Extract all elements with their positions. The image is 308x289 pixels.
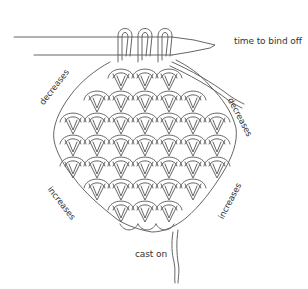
stitch-loop-inner (65, 161, 81, 166)
stitch-leg (137, 184, 153, 200)
label-cast-on: cast on (135, 249, 167, 259)
needle-loops (118, 29, 172, 63)
stitch-leg (185, 96, 201, 112)
stitch-loop-inner (89, 161, 105, 166)
stitch-loop-inner (65, 139, 81, 144)
stitch-leg (209, 140, 225, 156)
stitch-leg (89, 140, 105, 156)
stitch-loop-inner (209, 161, 225, 166)
stitch-loop (84, 113, 110, 122)
stitch-loop-inner (137, 95, 153, 100)
cast-on-tail-edge (177, 230, 179, 283)
stitch-loop-inner (185, 183, 201, 188)
needle-loop (138, 29, 152, 63)
stitch-loop (108, 201, 134, 210)
stitch-loop (180, 179, 206, 188)
stitch-loop (132, 201, 158, 210)
stitch-loop (60, 135, 86, 144)
stitch-loop-inner (113, 95, 129, 100)
stitch-loop-inner (113, 205, 129, 210)
stitch-loop-inner (161, 183, 177, 188)
stitch-loop (204, 135, 230, 144)
stitch-loop (132, 113, 158, 122)
stitch-loop-inner (113, 117, 129, 122)
stitch-leg (113, 74, 129, 90)
stitch-loop (156, 179, 182, 188)
label-time-to-bind-off: time to bind off (234, 36, 302, 46)
stitch-loop (108, 91, 134, 100)
stitch-loop-inner (137, 73, 153, 78)
stitch-loop-inner (137, 205, 153, 210)
stitch-leg (137, 74, 153, 90)
stitch-leg (161, 74, 177, 90)
stitch-loop (204, 157, 230, 166)
stitch-loop (108, 69, 134, 78)
stitch-leg (137, 118, 153, 134)
stitch-loop-inner (89, 95, 105, 100)
stitch-loop-inner (161, 117, 177, 122)
stitch-loop (156, 201, 182, 210)
stitch-loop (156, 69, 182, 78)
stitch-leg (161, 184, 177, 200)
stitch-loop (84, 157, 110, 166)
stitch-loop (84, 135, 110, 144)
cast-on-loop (120, 224, 138, 230)
stitch-leg (185, 184, 201, 200)
stitch-loop (132, 69, 158, 78)
stitch-loop-inner (65, 117, 81, 122)
stitch-loop (156, 135, 182, 144)
stitch-loop-inner (161, 139, 177, 144)
stitch-loop-inner (113, 73, 129, 78)
stitch-leg (137, 206, 153, 222)
stitch-leg (161, 140, 177, 156)
stitch-loop-inner (161, 161, 177, 166)
stitch-leg (185, 162, 201, 178)
stitch-loop (132, 157, 158, 166)
stitch-loop-inner (113, 183, 129, 188)
stitch-loop-inner (137, 183, 153, 188)
stitch-leg (137, 162, 153, 178)
stitch-leg (113, 118, 129, 134)
stitch-loop (108, 179, 134, 188)
stitch-leg (161, 118, 177, 134)
stitch-loop-inner (185, 95, 201, 100)
cast-on-tail (172, 232, 175, 283)
stitch-loop (84, 91, 110, 100)
stitch-leg (185, 140, 201, 156)
stitch-leg (161, 96, 177, 112)
stitch-loop (108, 113, 134, 122)
stitch-leg (137, 96, 153, 112)
stitch-leg (137, 140, 153, 156)
stitch-loop-inner (137, 117, 153, 122)
stitch-loop (84, 179, 110, 188)
stitch-leg (161, 206, 177, 222)
stitch-loop (180, 135, 206, 144)
stitch-loop (156, 113, 182, 122)
stitch-loop (60, 113, 86, 122)
stitch-loop (132, 179, 158, 188)
stitch-leg (209, 118, 225, 134)
stitch-loop-inner (185, 139, 201, 144)
stitch-loop (180, 91, 206, 100)
stitch-leg (65, 140, 81, 156)
stitch-loop-inner (137, 161, 153, 166)
needle (14, 37, 215, 55)
stitch-loop (108, 135, 134, 144)
stitch-loop-inner (89, 139, 105, 144)
stitch-loop-inner (185, 117, 201, 122)
stitch-leg (89, 118, 105, 134)
stitch-loop (180, 157, 206, 166)
stitch-loop-inner (161, 95, 177, 100)
needle-loop (118, 29, 132, 63)
stitch-grid (60, 69, 230, 230)
stitch-loop (108, 157, 134, 166)
needle-loop (158, 29, 172, 63)
stitch-leg (89, 162, 105, 178)
stitch-leg (209, 162, 225, 178)
stitch-leg (113, 206, 129, 222)
stitch-loop-inner (209, 117, 225, 122)
stitch-leg (113, 162, 129, 178)
stitch-loop (156, 157, 182, 166)
stitch-loop (156, 91, 182, 100)
stitch-leg (89, 96, 105, 112)
